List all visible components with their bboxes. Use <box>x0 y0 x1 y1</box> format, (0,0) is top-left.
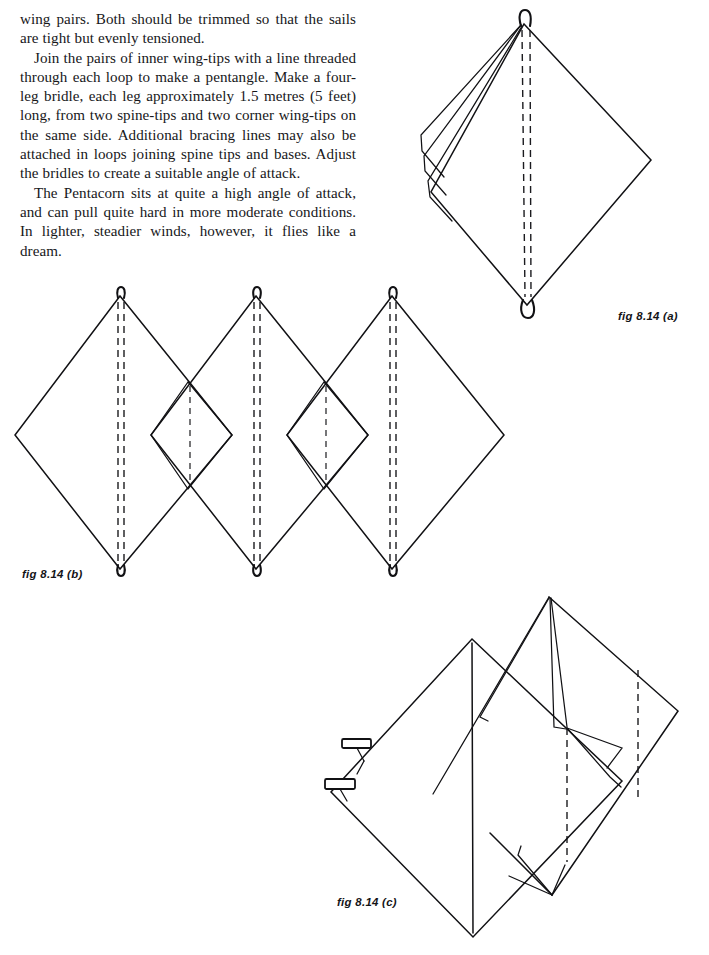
fig-c-bridle-tab-upper <box>342 739 371 774</box>
figure-caption-c: fig 8.14 (c) <box>337 896 397 908</box>
fig-b-overlap-diamond-2 <box>287 382 368 489</box>
document-page: wing pairs. Both should be trimmed so th… <box>0 0 709 955</box>
fig-c-rear-wing-folds <box>480 598 567 729</box>
fig-c-bridle-tab-lower <box>325 779 355 801</box>
fig-b-overlap-diamond-1 <box>151 382 232 489</box>
fig-c-rear-mid-flap <box>567 728 622 787</box>
fig-a-wing-fold-inner <box>428 26 522 221</box>
figure-caption-b: fig 8.14 (b) <box>22 568 83 580</box>
fig-a-wing-fold-outer <box>421 25 521 177</box>
fig-a-spine-dashed <box>522 30 531 297</box>
fig-a-top-loop <box>520 10 531 26</box>
fig-a-main-sail <box>431 24 651 305</box>
fig-c-front-sail <box>331 639 622 937</box>
fig-b-diamond-right <box>287 287 504 576</box>
fig-b-diamond-left <box>15 287 232 576</box>
fig-b-diamond-middle <box>151 287 368 576</box>
figure-8-14-b-drawing <box>0 280 709 580</box>
